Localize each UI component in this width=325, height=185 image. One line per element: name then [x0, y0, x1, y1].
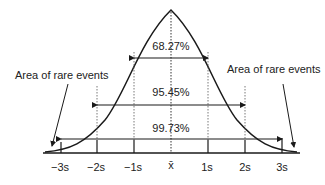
tick-label-mean: x̄ — [168, 160, 174, 171]
rare-arrow-left — [52, 84, 68, 146]
tick-label-m2s: −2s — [87, 162, 105, 173]
interval-label-95: 95.45% — [152, 87, 189, 98]
tick-label-m3s: −3s — [51, 162, 69, 173]
tick-label-p1s: 1s — [201, 162, 213, 173]
tick-label-p2s: 2s — [239, 162, 251, 173]
interval-label-99: 99.73% — [152, 123, 189, 134]
tick-label-m1s: −1s — [124, 162, 142, 173]
tick-label-p3s: 3s — [276, 162, 288, 173]
rare-events-right-label: Area of rare events — [227, 64, 321, 75]
rare-events-left-label: Area of rare events — [15, 70, 109, 81]
interval-label-68: 68.27% — [152, 41, 189, 52]
rare-arrow-right — [283, 84, 294, 147]
